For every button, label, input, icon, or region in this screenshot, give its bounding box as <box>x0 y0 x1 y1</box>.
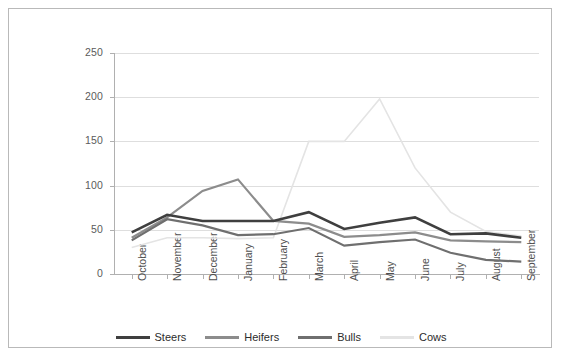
y-tick-label: 50 <box>69 223 103 235</box>
x-tick-mark <box>273 274 274 279</box>
x-tick-mark <box>238 274 239 279</box>
legend-item-bulls[interactable]: Bulls <box>298 331 361 343</box>
legend-label: Heifers <box>244 331 279 343</box>
x-tick-mark <box>450 274 451 279</box>
legend-swatch <box>116 336 150 339</box>
legend-swatch <box>298 336 332 339</box>
legend-swatch <box>380 336 414 339</box>
chart-frame: Slaughter ('000s) 050100150200250 Octobe… <box>8 8 552 348</box>
x-tick-mark <box>309 274 310 279</box>
x-tick-mark <box>132 274 133 279</box>
legend-item-steers[interactable]: Steers <box>116 331 187 343</box>
legend-label: Cows <box>419 331 447 343</box>
legend-swatch <box>205 336 239 339</box>
legend-label: Bulls <box>337 331 361 343</box>
chart-legend: SteersHeifersBullsCows <box>9 331 553 343</box>
x-tick-mark <box>167 274 168 279</box>
y-tick-label: 150 <box>69 134 103 146</box>
line-series-group <box>114 53 539 274</box>
y-tick-label: 100 <box>69 179 103 191</box>
plot-area <box>114 53 539 274</box>
y-tick-label: 250 <box>69 46 103 58</box>
y-tick-label: 0 <box>69 267 103 279</box>
x-tick-mark <box>380 274 381 279</box>
series-line-steers <box>132 212 522 238</box>
legend-label: Steers <box>155 331 187 343</box>
x-tick-mark <box>203 274 204 279</box>
x-tick-mark <box>344 274 345 279</box>
series-line-cows <box>132 99 522 248</box>
x-tick-mark <box>521 274 522 279</box>
x-tick-mark <box>486 274 487 279</box>
x-tick-mark <box>415 274 416 279</box>
legend-item-heifers[interactable]: Heifers <box>205 331 279 343</box>
y-tick-label: 200 <box>69 90 103 102</box>
legend-item-cows[interactable]: Cows <box>380 331 447 343</box>
